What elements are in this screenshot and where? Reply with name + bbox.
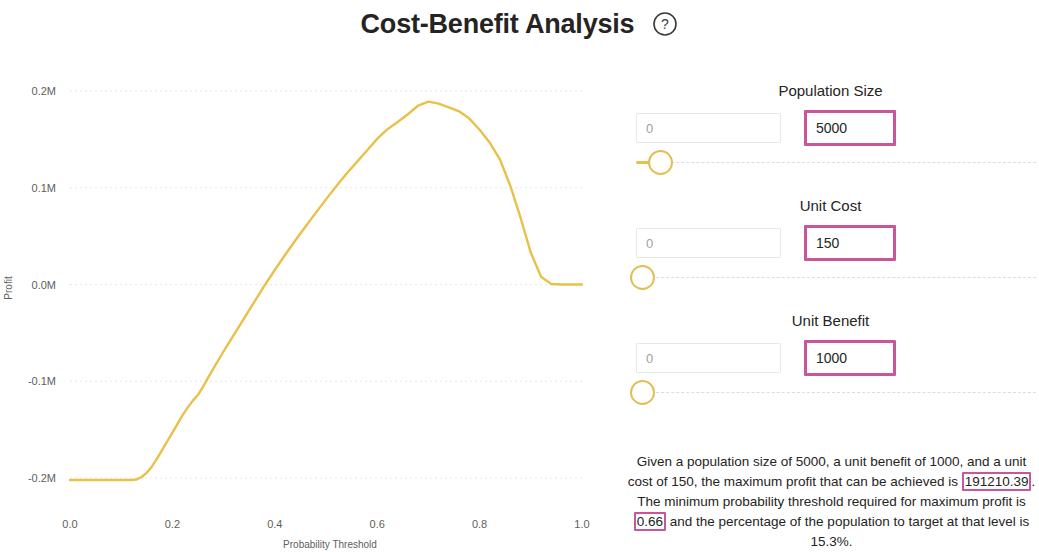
slicer-label-population-size: Population Size: [622, 82, 1039, 99]
profit-series-line: [70, 102, 582, 480]
chart-gridlines: [70, 91, 582, 478]
x-axis-tick-label: 0.4: [267, 518, 282, 530]
profit-line-chart[interactable]: 0.2M0.1M0.0M-0.1M-0.2M 0.00.20.40.60.81.…: [0, 60, 612, 552]
cost-benefit-analysis-report: Cost-Benefit Analysis ? 0.2M0.1M0.0M-0.1…: [0, 0, 1039, 552]
slider-track-population-size[interactable]: [636, 162, 1036, 165]
x-axis-tick-label: 0.2: [165, 518, 180, 530]
parameter-slicers: Population Size 0 5000 Unit Cost 0 150: [622, 82, 1039, 432]
y-axis-tick-label: -0.1M: [28, 375, 56, 387]
question-circle-icon[interactable]: ?: [652, 11, 678, 37]
slicer-unit-cost[interactable]: Unit Cost 0 150: [622, 197, 1039, 305]
slicer-value-boxes-unit-benefit: 0 1000: [636, 340, 896, 376]
summary-text-part3: and the percentage of the population to …: [666, 514, 1029, 549]
max-value-input-unit-benefit[interactable]: 1000: [804, 340, 896, 376]
x-axis-tick-label: 1.0: [574, 518, 589, 530]
slicer-unit-benefit[interactable]: Unit Benefit 0 1000: [622, 312, 1039, 420]
max-profit-value: 191210.39: [962, 472, 1032, 491]
slicer-value-boxes-unit-cost: 0 150: [636, 225, 896, 261]
slider-population-size[interactable]: [636, 148, 1036, 178]
y-axis-tick-label: 0.1M: [32, 182, 56, 194]
x-axis-tick-label: 0.0: [62, 518, 77, 530]
slider-unit-benefit[interactable]: [636, 378, 1036, 408]
x-axis-tick-label: 0.8: [472, 518, 487, 530]
slicer-label-unit-cost: Unit Cost: [622, 197, 1039, 214]
y-axis-tick-labels: 0.2M0.1M0.0M-0.1M-0.2M: [28, 85, 56, 484]
chart-canvas: 0.2M0.1M0.0M-0.1M-0.2M 0.00.20.40.60.81.…: [0, 60, 612, 552]
slicer-value-boxes-population-size: 0 5000: [636, 110, 896, 146]
report-header: Cost-Benefit Analysis ?: [0, 0, 1039, 48]
y-axis-title: Profit: [3, 276, 14, 300]
max-value-input-population-size[interactable]: 5000: [804, 110, 896, 146]
slider-unit-cost[interactable]: [636, 263, 1036, 293]
min-value-input-unit-cost[interactable]: 0: [636, 228, 781, 258]
x-axis-tick-label: 0.6: [370, 518, 385, 530]
y-axis-tick-label: 0.0M: [32, 279, 56, 291]
slider-handle-population-size[interactable]: [648, 150, 673, 175]
slider-track-unit-benefit[interactable]: [636, 392, 1036, 395]
y-axis-tick-label: 0.2M: [32, 85, 56, 97]
summary-narrative: Given a population size of 5000, a unit …: [624, 452, 1039, 552]
slider-track-unit-cost[interactable]: [636, 277, 1036, 280]
x-axis-title: Probability Threshold: [283, 539, 377, 550]
slider-handle-unit-cost[interactable]: [630, 265, 655, 290]
slicer-population-size[interactable]: Population Size 0 5000: [622, 82, 1039, 190]
max-value-input-unit-cost[interactable]: 150: [804, 225, 896, 261]
x-axis-tick-labels: 0.00.20.40.60.81.0: [62, 518, 589, 530]
min-value-input-unit-benefit[interactable]: 0: [636, 343, 781, 373]
slider-handle-unit-benefit[interactable]: [630, 380, 655, 405]
y-axis-tick-label: -0.2M: [28, 472, 56, 484]
slicer-label-unit-benefit: Unit Benefit: [622, 312, 1039, 329]
page-title: Cost-Benefit Analysis: [361, 9, 635, 40]
threshold-value: 0.66: [634, 512, 666, 531]
svg-text:?: ?: [662, 16, 670, 32]
min-value-input-population-size[interactable]: 0: [636, 113, 781, 143]
